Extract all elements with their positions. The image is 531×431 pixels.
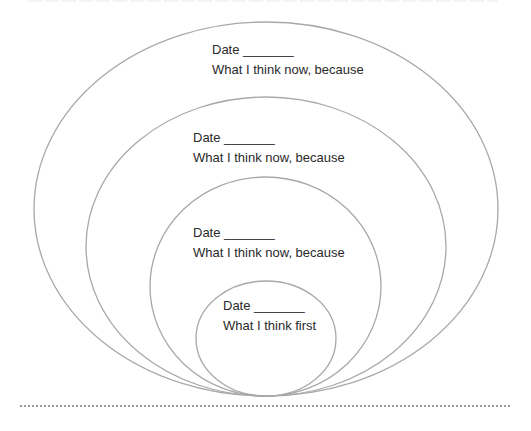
date-field: Date _______ xyxy=(193,223,345,243)
ring-second-label: Date _______ What I think now, because xyxy=(193,128,345,168)
ring-text: What I think now, because xyxy=(193,243,345,263)
dotted-divider xyxy=(20,405,510,407)
date-field: Date _______ xyxy=(223,296,316,316)
date-field: Date _______ xyxy=(212,40,364,60)
ring-third xyxy=(150,177,381,396)
ring-outer-label: Date _______ What I think now, because xyxy=(212,40,364,80)
ring-text: What I think now, because xyxy=(193,148,345,168)
ring-inner-label: Date _______ What I think first xyxy=(223,296,316,336)
date-field: Date _______ xyxy=(193,128,345,148)
ring-text: What I think first xyxy=(223,316,316,336)
ring-third-label: Date _______ What I think now, because xyxy=(193,223,345,263)
ring-text: What I think now, because xyxy=(212,60,364,80)
